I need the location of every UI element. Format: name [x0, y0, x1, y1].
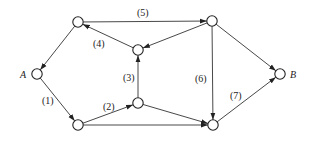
node-label-b: B [290, 69, 296, 80]
edge-label: (3) [123, 72, 135, 84]
node-a [32, 69, 42, 79]
node-n2 [207, 16, 217, 26]
node-n3 [133, 45, 143, 55]
node-label-a: A [19, 69, 27, 80]
edge-label: (2) [103, 101, 115, 113]
edge-n1-to-n2 [83, 21, 207, 22]
node-n1 [73, 17, 83, 27]
edge-label: (4) [93, 38, 105, 50]
edge-n2-to-n6 [212, 26, 213, 120]
edge-n6-to-b [217, 77, 276, 122]
node-n6 [208, 120, 218, 130]
edge-label: (5) [137, 7, 149, 19]
network-diagram: (1)(2)(3)(4)(5)(6)(7)AB [0, 0, 310, 144]
edge-n3-to-n1 [83, 24, 134, 48]
node-n5 [73, 120, 83, 130]
edge-n4-to-n6 [143, 104, 208, 123]
node-n4 [133, 98, 143, 108]
edge-n1-to-a [40, 26, 75, 70]
node-b [275, 69, 285, 79]
edge-label: (1) [42, 95, 54, 107]
edge-n2-to-b [216, 24, 276, 71]
edge-n2-to-n3 [143, 23, 207, 48]
edge-label: (7) [230, 90, 242, 102]
edges-layer [40, 21, 276, 125]
edge-label: (6) [195, 73, 207, 85]
labels-layer: (1)(2)(3)(4)(5)(6)(7)AB [19, 7, 296, 113]
